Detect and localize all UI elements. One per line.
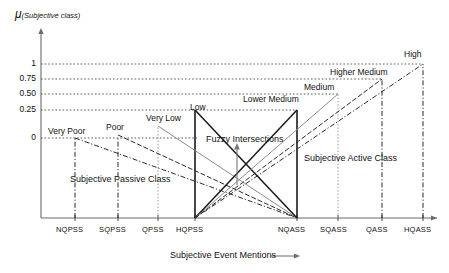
x-tick-sqpss: SQPSS [99,226,126,234]
x-tick-hqass: HQASS [404,226,431,234]
series-label-low: Low [190,103,206,112]
y-tick-0: 0 [6,133,36,142]
x-tick-hqpss: HQPSS [176,226,203,234]
series-label-poor: Poor [106,123,124,132]
y-axis-symbol: μ [15,7,22,21]
x-tick-qpss: QPSS [142,226,164,234]
series-label-medium: Medium [304,83,334,92]
series-label-very-poor: Very Poor [48,127,85,136]
annotation-active-class: Subjective Active Class [304,154,397,163]
y-tick-050: 0.50 [6,89,36,98]
axes [38,28,437,221]
x-axis-title: Subjective Event Mentions [170,251,276,260]
x-tick-sqass: SQASS [320,226,347,234]
y-axis-title: μ(Subjective class) [15,8,80,20]
series-label-high: High [404,50,421,59]
annotation-fuzzy-intersections: Fuzzy Intersections [206,135,284,144]
series-label-lower-medium: Lower Medium [243,95,299,104]
x-tick-qass: QASS [366,226,388,234]
x-tick-nqpss: NQPSS [56,226,83,234]
y-tick-075: 0.75 [6,74,36,83]
fuzzy-intersection-arrow [234,143,240,185]
y-tick-1: 1 [6,59,36,68]
annotation-passive-class: Subjective Passive Class [70,175,171,184]
y-tick-025: 0.25 [6,105,36,114]
chart-canvas: μ(Subjective class) 1 0.75 0.50 0.25 0 N… [0,0,449,273]
y-axis-subtitle: (Subjective class) [22,11,81,20]
series-label-very-low: Very Low [146,114,181,123]
series-label-higher-medium: Higher Medium [330,68,388,77]
x-tick-nqass: NQASS [278,226,305,234]
